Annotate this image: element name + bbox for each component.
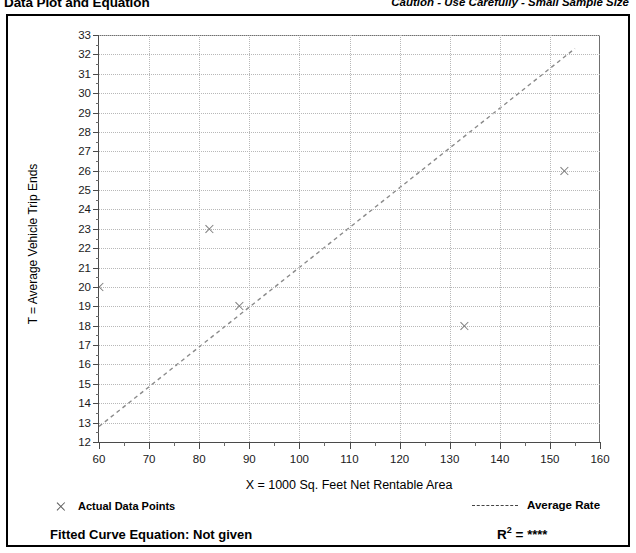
y-axis-tick-label: 22 [78,242,91,254]
y-axis-minor-tick [96,239,100,240]
x-axis-minor-tick [425,442,426,446]
x-axis-tick-label: 150 [540,453,559,465]
y-axis-tick [93,248,99,249]
r-squared-value: **** [527,527,547,542]
gridline-vertical [500,35,501,442]
y-axis-tick-label: 30 [78,87,91,99]
y-axis-tick-label: 18 [78,320,91,332]
y-axis-tick-label: 33 [78,29,91,41]
y-axis-minor-tick [96,83,100,84]
x-axis-tick-label: 100 [290,453,309,465]
y-axis-tick-label: 23 [78,223,91,235]
y-axis-minor-tick [96,297,100,298]
y-axis-tick-label: 26 [78,165,91,177]
x-axis-tick-label: 140 [490,453,509,465]
x-axis-minor-tick [274,442,275,446]
y-axis-tick [93,54,99,55]
legend-average-rate-label: Average Rate [527,499,600,511]
y-axis-tick-label: 19 [78,300,91,312]
y-axis-tick [93,74,99,75]
data-point-marker [459,320,470,331]
x-axis-tick [99,442,100,449]
y-axis-minor-tick [96,374,100,375]
x-axis-tick [299,442,300,449]
x-axis-minor-tick [525,442,526,446]
legend-x-marker-icon [55,501,66,512]
x-axis-tick [149,442,150,449]
y-axis-minor-tick [96,335,100,336]
y-axis-minor-tick [96,394,100,395]
gridline-vertical [350,35,351,442]
y-axis-tick-label: 28 [78,126,91,138]
y-axis-tick [93,423,99,424]
y-axis-tick-label: 20 [78,281,91,293]
y-axis-tick [93,384,99,385]
y-axis-tick [93,268,99,269]
y-axis-title: T = Average Vehicle Trip Ends [26,140,46,320]
y-axis-title-text: T = Average Vehicle Trip Ends [26,154,40,334]
y-axis-tick [93,93,99,94]
x-axis-minor-tick [475,442,476,446]
gridline-vertical [149,35,150,442]
fitted-curve-equation: Fitted Curve Equation: Not given [50,527,252,542]
r-squared-block: R2 = **** [497,525,547,542]
x-axis-tick [350,442,351,449]
y-axis-tick [93,229,99,230]
data-point-marker [99,281,105,292]
gridline-vertical [299,35,300,442]
y-axis-tick-label: 15 [78,378,91,390]
y-axis-minor-tick [96,316,100,317]
x-axis-tick-label: 160 [590,453,609,465]
x-axis-minor-tick [174,442,175,446]
x-axis-tick [400,442,401,449]
x-axis-tick [450,442,451,449]
y-axis-minor-tick [96,45,100,46]
x-axis-tick [550,442,551,449]
y-axis-tick-label: 21 [78,262,91,274]
data-point-marker [234,301,245,312]
chart-area: 1213141516171819202122232425262728293031… [0,0,636,553]
y-axis-minor-tick [96,277,100,278]
y-axis-tick [93,132,99,133]
x-axis-tick-label: 80 [193,453,206,465]
data-point-marker [559,165,570,176]
legend-dashed-line-icon [472,505,518,506]
y-axis-minor-tick [96,413,100,414]
y-axis-minor-tick [96,355,100,356]
y-axis-minor-tick [96,432,100,433]
x-axis-minor-tick [375,442,376,446]
y-axis-tick [93,113,99,114]
y-axis-tick [93,326,99,327]
x-axis-minor-tick [124,442,125,446]
y-axis-tick-label: 32 [78,48,91,60]
gridline-vertical [249,35,250,442]
y-axis-tick [93,35,99,36]
y-axis-minor-tick [96,161,100,162]
gridline-vertical [199,35,200,442]
y-axis-tick [93,151,99,152]
plot-box: 1213141516171819202122232425262728293031… [98,35,600,443]
gridline-vertical [450,35,451,442]
y-axis-tick-label: 27 [78,145,91,157]
legend-data-points-label: Actual Data Points [78,500,175,512]
y-axis-tick [93,171,99,172]
x-axis-minor-tick [575,442,576,446]
y-axis-tick-label: 16 [78,358,91,370]
y-axis-tick [93,209,99,210]
y-axis-tick [93,364,99,365]
y-axis-minor-tick [96,258,100,259]
y-axis-tick-label: 13 [78,417,91,429]
y-axis-tick-label: 29 [78,107,91,119]
y-axis-minor-tick [96,64,100,65]
y-axis-minor-tick [96,180,100,181]
x-axis-tick [249,442,250,449]
gridline-vertical [550,35,551,442]
r-squared-equals: = [512,527,527,542]
r-squared-label: R [497,527,507,542]
x-axis-tick-label: 70 [143,453,156,465]
x-axis-minor-tick [324,442,325,446]
y-axis-tick-label: 14 [78,397,91,409]
y-axis-minor-tick [96,142,100,143]
y-axis-minor-tick [96,200,100,201]
y-axis-tick [93,345,99,346]
